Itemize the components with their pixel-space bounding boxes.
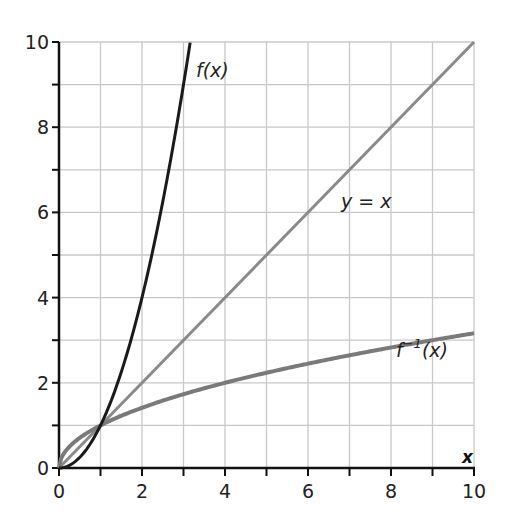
x-tick-label: 8 <box>385 480 397 502</box>
inverse-function-label: f−1(x) <box>396 336 448 361</box>
x-tick-label: 2 <box>136 480 148 502</box>
x-tick-label: 10 <box>462 480 486 502</box>
x-tick-label: 6 <box>302 480 314 502</box>
y-tick-label: 6 <box>37 201 49 223</box>
y-tick-label: 2 <box>37 372 49 394</box>
x-tick-label: 4 <box>219 480 231 502</box>
x-tick-label: 0 <box>53 480 65 502</box>
function-inverse-chart: 02468100246810 f(x) y = x f−1(x) x <box>0 0 512 525</box>
function-label: f(x) <box>196 59 229 81</box>
y-tick-label: 10 <box>25 31 49 53</box>
curve-labels: f(x) y = x f−1(x) <box>196 59 448 361</box>
x-axis-title: x <box>461 447 474 467</box>
y-tick-label: 4 <box>37 287 49 309</box>
y-tick-label: 8 <box>37 116 49 138</box>
identity-label: y = x <box>340 190 392 212</box>
y-tick-label: 0 <box>37 457 49 479</box>
